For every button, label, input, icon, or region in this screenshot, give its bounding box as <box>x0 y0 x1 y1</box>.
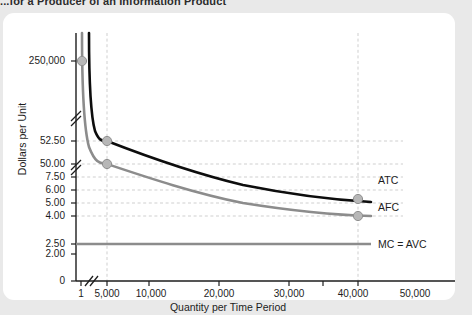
marker-afc-q50000 <box>353 211 362 220</box>
y-tick-label-4-00: 4.00 <box>5 210 65 221</box>
x-tick-label-40000: 40,000 <box>338 288 369 299</box>
y-tick-label-0: 0 <box>5 275 65 286</box>
x-tick-label-50000: 50,000 <box>400 288 431 299</box>
series-label-mcavc: MC = AVC <box>378 238 427 250</box>
x-tick-label-10000: 10,000 <box>136 288 167 299</box>
marker-afc-q5000 <box>102 159 111 168</box>
data-point-markers <box>77 56 362 220</box>
y-tick-label-52-50: 52.50 <box>5 135 65 146</box>
x-tick-label-1: 1 <box>78 288 84 299</box>
x-axis-ticks <box>81 281 358 286</box>
series-line-afc <box>82 33 371 216</box>
x-tick-label-5000: 5,000 <box>94 288 119 299</box>
gridlines-horizontal <box>76 141 403 216</box>
marker-atc-q50000 <box>353 194 362 203</box>
series-label-afc: AFC <box>378 201 399 213</box>
marker-afc-q1 <box>77 56 86 65</box>
x-tick-label-20000: 20,000 <box>204 288 235 299</box>
y-tick-label-2-00: 2.00 <box>5 248 65 259</box>
y-tick-label-50-00: 50.00 <box>5 158 65 169</box>
chart-svg <box>3 13 455 300</box>
chart-plot-area: Dollars per Unit 250,000 52.50 50.00 7.5… <box>3 13 455 300</box>
x-tick-label-30000: 30,000 <box>274 288 305 299</box>
marker-atc-q5000 <box>102 136 111 145</box>
y-tick-label-5-00: 5.00 <box>5 197 65 208</box>
chart-card: Dollars per Unit 250,000 52.50 50.00 7.5… <box>3 13 455 300</box>
figure-title: ...for a Producer of an Information Prod… <box>0 0 226 7</box>
figure-title-strip: ...for a Producer of an Information Prod… <box>0 0 472 13</box>
y-tick-label-7-50: 7.50 <box>5 171 65 182</box>
y-tick-label-250000: 250,000 <box>5 55 65 66</box>
x-axis-title: Quantity per Time Period <box>63 301 393 313</box>
y-tick-label-6-00: 6.00 <box>5 184 65 195</box>
series-label-atc: ATC <box>378 174 398 186</box>
